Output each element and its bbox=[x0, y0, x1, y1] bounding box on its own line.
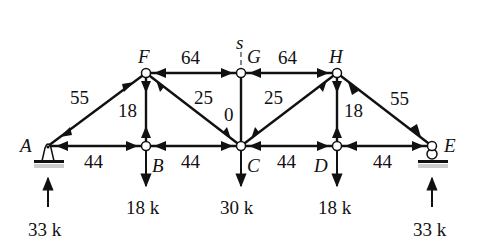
joint-H bbox=[333, 69, 342, 78]
load-label-D: 18 k bbox=[318, 197, 352, 218]
section-label: s bbox=[236, 32, 243, 53]
joint-G bbox=[237, 69, 246, 78]
joint-D bbox=[333, 142, 342, 151]
arrow-CH-C bbox=[251, 127, 259, 139]
force-label-FG: 64 bbox=[181, 47, 201, 68]
node-label-D: D bbox=[313, 155, 328, 176]
force-label-BC: 44 bbox=[181, 151, 201, 172]
arrow-AB-B bbox=[126, 141, 138, 151]
joint-E bbox=[428, 142, 437, 151]
arrow-HD-H bbox=[332, 81, 342, 93]
reaction-label-A: 33 k bbox=[28, 219, 62, 240]
arrow-CH-H bbox=[319, 80, 327, 92]
arrow-HD-D bbox=[332, 126, 342, 138]
arrow-DE-D bbox=[345, 141, 357, 151]
joint-C bbox=[237, 142, 246, 151]
joint-F bbox=[142, 69, 151, 78]
arrow-BC-B bbox=[154, 141, 166, 151]
node-label-H: H bbox=[328, 46, 344, 67]
force-label-HD: 18 bbox=[344, 100, 363, 121]
arrow-FC-F bbox=[156, 80, 164, 92]
node-label-C: C bbox=[247, 155, 260, 176]
arrow-FB-B bbox=[141, 126, 151, 138]
node-label-G: G bbox=[247, 46, 261, 67]
force-label-DE: 44 bbox=[373, 151, 393, 172]
joint-B bbox=[142, 142, 151, 151]
reaction-label-E: 33 k bbox=[413, 219, 447, 240]
force-label-CH: 25 bbox=[264, 87, 283, 108]
arrow-FG-F bbox=[154, 68, 166, 78]
force-label-AB: 44 bbox=[84, 151, 104, 172]
arrow-CD-D bbox=[317, 141, 329, 151]
node-label-F: F bbox=[137, 46, 150, 67]
force-label-AF: 55 bbox=[70, 87, 89, 108]
force-label-CD: 44 bbox=[277, 151, 297, 172]
load-label-C: 30 k bbox=[220, 197, 254, 218]
arrow-GH-H bbox=[317, 68, 329, 78]
force-label-GH: 64 bbox=[278, 47, 298, 68]
load-label-B: 18 k bbox=[126, 197, 160, 218]
node-label-E: E bbox=[443, 135, 456, 156]
force-label-FB: 18 bbox=[118, 100, 137, 121]
arrow-AB-A bbox=[56, 141, 68, 151]
truss-members bbox=[48, 73, 432, 146]
arrow-AF-F bbox=[122, 82, 134, 92]
force-label-FC: 25 bbox=[194, 87, 213, 108]
arrow-FC-C bbox=[223, 127, 231, 139]
pin-support-A bbox=[34, 144, 64, 168]
arrow-BC-C bbox=[221, 141, 233, 151]
truss-diagram: s A B C D E F G H 55 64 64 55 18 25 0 25… bbox=[0, 0, 484, 252]
force-label-HE: 55 bbox=[390, 88, 409, 109]
arrow-GH-G bbox=[249, 68, 261, 78]
arrow-DE-E bbox=[412, 141, 424, 151]
force-label-GC: 0 bbox=[224, 104, 234, 125]
arrow-AF-A bbox=[60, 127, 72, 137]
node-label-B: B bbox=[152, 155, 164, 176]
node-label-A: A bbox=[18, 135, 32, 156]
arrow-FG-G bbox=[221, 68, 233, 78]
arrow-FB-F bbox=[141, 81, 151, 93]
arrow-CD-C bbox=[249, 141, 261, 151]
